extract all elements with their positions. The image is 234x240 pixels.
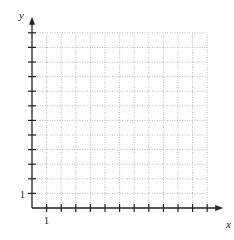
x-axis-arrow-icon xyxy=(215,205,223,211)
grid-lines xyxy=(32,33,207,208)
x-tick-label-1: 1 xyxy=(44,215,49,226)
tick-marks xyxy=(28,33,207,212)
coordinate-plane: x y 1 1 xyxy=(0,0,234,240)
x-axis-label: x xyxy=(225,218,231,230)
y-tick-label-1: 1 xyxy=(20,189,25,200)
y-axis-arrow-icon xyxy=(29,17,35,25)
axes xyxy=(29,17,223,211)
y-axis-label: y xyxy=(18,9,24,21)
